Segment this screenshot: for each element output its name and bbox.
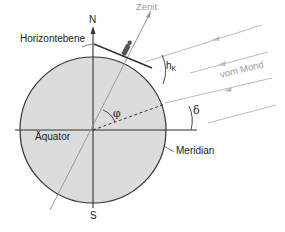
altitude-angle-label: hK: [166, 60, 177, 72]
meridian-label: Meridian: [176, 145, 214, 156]
phi-label: φ: [113, 107, 121, 120]
north-arrowhead: [91, 26, 96, 34]
south-label: S: [90, 210, 97, 221]
delta-label: δ: [193, 104, 200, 117]
altitude-angle-subscript: K: [172, 65, 177, 72]
moon-rays: [145, 25, 276, 123]
zenith-label: Zenit: [136, 1, 157, 12]
moon-altitude-diagram: N S Zenit Horizontebene vom Mond Äquator…: [0, 0, 285, 232]
equator-label: Äquator: [35, 131, 71, 142]
north-label: N: [89, 14, 96, 25]
observer-icon: [121, 40, 133, 57]
horizon-label-leader: [82, 44, 94, 47]
horizon-plane-label: Horizontebene: [20, 33, 85, 44]
declination-angle-arc: [189, 106, 192, 130]
ray-arrowheads: [212, 36, 232, 92]
meridian-leader: [164, 146, 174, 152]
